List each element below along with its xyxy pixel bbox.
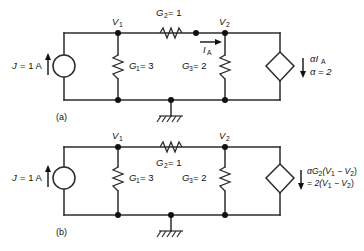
node-dot-v1-bottom-b: [115, 212, 121, 218]
node-label-v2-sub-b: 2: [226, 135, 230, 142]
node-dot-v1-bottom-a: [115, 97, 121, 103]
caption-a: (a): [56, 112, 67, 122]
resistor-g1-value-b: = 3: [140, 172, 153, 183]
node-dot-v2-a: [222, 30, 228, 36]
resistor-g2-label-a: G: [156, 7, 163, 18]
ground-hatch-4-a: [172, 116, 176, 122]
ground-hatch-5-b: [177, 231, 181, 237]
dependent-label-line2-a: α = 2: [310, 66, 332, 77]
ground-node-dot-b: [168, 212, 174, 218]
resistor-g1-a: [113, 55, 123, 79]
current-source-a: [53, 55, 75, 77]
dep-b-l2-pre: = 2(V: [307, 178, 329, 188]
ground-hatch-1-a: [157, 116, 161, 122]
caption-b: (b): [56, 227, 67, 237]
current-source-b: [53, 167, 75, 189]
resistor-g1-value-a: = 3: [140, 60, 153, 71]
node-dot-v2-bottom-a: [222, 97, 228, 103]
dependent-label-line1-b: αG2(V1 − V2): [307, 166, 357, 177]
current-arrow-head-a: [215, 39, 222, 45]
current-label-ia-sub-a: A: [207, 49, 212, 56]
source-label-b-value: = 1 A: [20, 172, 43, 183]
ground-hatch-4-b: [172, 231, 176, 237]
dep-b-l1-end: ): [354, 166, 357, 176]
resistor-g1-b: [113, 167, 123, 191]
resistor-g3-value-b: = 2: [193, 172, 206, 183]
resistor-g2-label-b: G: [156, 157, 163, 168]
node-label-v1-sub-a: 1: [119, 21, 123, 28]
source-label-a-value: = 1 A: [20, 60, 43, 71]
source-arrow-head-b: [45, 165, 51, 172]
circuit-b: J = 1 A V 1 G 1 = 3 G 2 = 1 V 2: [11, 130, 357, 237]
dep-b-l2-end: ): [351, 178, 354, 188]
source-arrow-head-a: [45, 53, 51, 60]
ground-hatch-2-a: [162, 116, 166, 122]
circuit-a: J = 1 A V 1 G 1 = 3 G 2 = 1 I A: [11, 7, 332, 122]
ground-hatch-2-b: [162, 231, 166, 237]
circuit-figure: J = 1 A V 1 G 1 = 3 G 2 = 1 I A: [0, 0, 364, 251]
dependent-source-b: [266, 164, 294, 193]
dependent-label-line1-a: αI: [310, 53, 318, 64]
ground-hatch-3-b: [167, 231, 171, 237]
resistor-g3-a: [220, 55, 230, 79]
ground-hatch-3-a: [167, 116, 171, 122]
node-label-v1-sub-b: 1: [119, 135, 123, 142]
dependent-label-line1-sub-a: A: [321, 58, 326, 65]
dep-b-l1-mid: − V: [335, 166, 352, 176]
ground-node-dot-a: [168, 97, 174, 103]
source-label-b-main: J: [11, 172, 17, 183]
node-dot-v1-a: [115, 30, 121, 36]
source-label-a-main: J: [11, 60, 17, 71]
current-sense-dot-a: [193, 30, 199, 36]
dependent-source-a: [266, 52, 294, 81]
resistor-g2-value-b: = 1: [168, 157, 181, 168]
circuit-svg: J = 1 A V 1 G 1 = 3 G 2 = 1 I A: [0, 0, 364, 251]
resistor-g2-value-a: = 1: [168, 7, 181, 18]
ground-hatch-1-b: [157, 231, 161, 237]
dependent-arrow-head-a: [300, 71, 306, 78]
node-dot-v2-bottom-b: [222, 212, 228, 218]
current-label-ia-a: I: [203, 44, 206, 55]
ground-hatch-5-a: [177, 116, 181, 122]
dep-b-l2-mid: − V: [332, 178, 349, 188]
dependent-label-line2-b: = 2(V1 − V2): [307, 178, 354, 189]
node-label-v2-sub-a: 2: [226, 21, 230, 28]
dep-b-l1-pre: αG: [307, 166, 319, 176]
resistor-g3-value-a: = 2: [193, 60, 206, 71]
dependent-arrow-head-b: [298, 183, 304, 190]
resistor-g3-b: [220, 167, 230, 191]
node-dot-v2-b: [222, 144, 228, 150]
node-dot-v1-b: [115, 144, 121, 150]
